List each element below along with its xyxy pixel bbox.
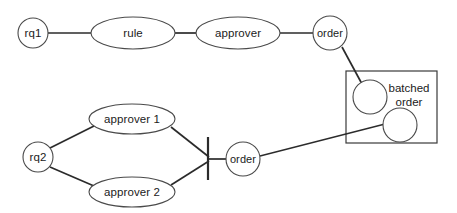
node-approver-1[interactable]: approver 1 xyxy=(89,104,175,134)
node-approver-2[interactable]: approver 2 xyxy=(89,177,175,207)
node-rq2[interactable]: rq2 xyxy=(23,142,53,172)
node-rule[interactable]: rule xyxy=(91,17,175,49)
rq1-label: rq1 xyxy=(25,27,42,39)
approver-2-label: approver 2 xyxy=(104,186,160,198)
batched-item-2-circle xyxy=(383,108,417,142)
node-batched-item-2[interactable] xyxy=(383,108,417,142)
order-top-label: order xyxy=(317,27,343,39)
edge-rq2-to-approver2 xyxy=(50,167,94,186)
node-order-top[interactable]: order xyxy=(313,16,347,50)
edge-approver2-to-sync-bar xyxy=(171,161,209,185)
batched-order-label-line2: order xyxy=(396,96,423,108)
flow-diagram: batched order rq1 rule xyxy=(0,0,457,213)
node-batched-item-1[interactable] xyxy=(353,80,387,114)
approver-1-label: approver 1 xyxy=(104,113,160,125)
batched-order-label-line1: batched xyxy=(389,82,430,94)
order-bottom-label: order xyxy=(230,153,256,165)
node-approver[interactable]: approver xyxy=(196,17,280,49)
node-rq1[interactable]: rq1 xyxy=(18,18,48,48)
edge-rq2-to-approver1 xyxy=(50,126,94,148)
approver-label: approver xyxy=(215,27,261,39)
batched-item-1-circle xyxy=(353,80,387,114)
rq2-label: rq2 xyxy=(30,151,47,163)
rule-label: rule xyxy=(123,27,143,39)
edge-approver1-to-sync-bar xyxy=(171,127,209,157)
diagram-canvas: batched order rq1 rule xyxy=(0,0,457,213)
node-order-bottom[interactable]: order xyxy=(226,142,260,176)
